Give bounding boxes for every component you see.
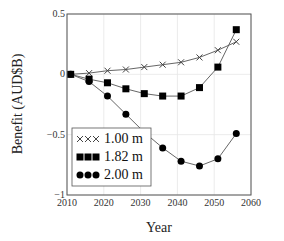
circle-marker-icon [214,155,221,162]
square-marker-icon [178,93,185,100]
circle-marker-icon [77,172,100,179]
square-marker-icon [141,90,148,97]
y-tick-label: −0.5 [47,129,65,140]
y-axis-ticks: −1−0.500.5 [47,8,65,200]
y-axis-label: Benefit (AUD$B) [10,53,26,154]
x-tick-label: 2020 [94,197,114,208]
y-tick-label: −1 [54,189,65,200]
y-tick-label: 0.5 [53,8,66,19]
circle-marker-icon [122,111,129,118]
square-marker-icon [85,154,92,161]
x-tick-label: 2040 [167,197,187,208]
circle-marker-icon [233,130,240,137]
square-marker-icon [122,85,129,92]
line-chart: 201020202030204020502060 −1−0.500.5 Year… [0,0,284,241]
x-tick-label: 2060 [241,197,261,208]
square-marker-icon [93,154,100,161]
square-marker-icon [233,26,240,33]
x-axis-ticks: 201020202030204020502060 [57,197,261,208]
circle-marker-icon [77,172,84,179]
circle-marker-icon [85,172,92,179]
series-line [71,42,237,75]
square-marker-icon [104,79,111,86]
circle-marker-icon [178,158,185,165]
legend-label: 1.82 m [104,149,143,164]
square-marker-icon [77,154,100,161]
square-marker-icon [196,84,203,91]
x-marker-icon [215,47,221,53]
x-marker-icon [233,39,239,45]
circle-marker-icon [104,93,111,100]
square-marker-icon [159,93,166,100]
y-tick-label: 0 [60,68,65,79]
x-axis-label: Year [146,220,172,235]
legend-label: 1.00 m [104,131,143,146]
circle-marker-icon [196,163,203,170]
legend-label: 2.00 m [104,167,143,182]
x-marker-icon [196,54,202,60]
circle-marker-icon [159,144,166,151]
circle-marker-icon [86,78,93,85]
square-marker-icon [77,154,84,161]
x-tick-label: 2030 [131,197,151,208]
circle-marker-icon [67,71,74,78]
x-tick-label: 2050 [204,197,224,208]
legend: 1.00 m 1.82 m 2.00 m [72,128,151,186]
circle-marker-icon [93,172,100,179]
square-marker-icon [214,64,221,71]
